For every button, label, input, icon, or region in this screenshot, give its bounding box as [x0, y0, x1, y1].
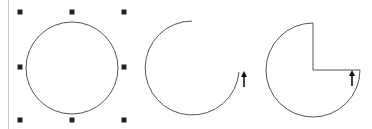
pie-up-arrow-icon: [349, 70, 355, 86]
arc-up-arrow-icon: [241, 71, 247, 87]
handle-middle-left[interactable]: [18, 65, 23, 70]
handle-top-left[interactable]: [18, 10, 23, 15]
pie-group[interactable]: [266, 23, 360, 117]
arc-shape[interactable]: [145, 21, 239, 115]
handle-middle-right[interactable]: [122, 65, 127, 70]
handle-top-center[interactable]: [70, 10, 75, 15]
handle-bottom-left[interactable]: [18, 118, 23, 123]
handle-top-right[interactable]: [122, 10, 127, 15]
handle-bottom-center[interactable]: [70, 118, 75, 123]
pie-shape[interactable]: [266, 23, 360, 117]
circle-shape[interactable]: [26, 22, 118, 114]
handle-bottom-right[interactable]: [122, 118, 127, 123]
selected-circle-group[interactable]: [18, 10, 127, 123]
diagram-canvas: [0, 0, 372, 129]
selection-handles: [18, 10, 127, 123]
arc-group[interactable]: [145, 21, 247, 115]
